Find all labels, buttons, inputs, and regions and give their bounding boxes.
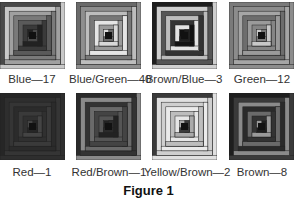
block-label: Red/Brown—1	[69, 166, 149, 178]
log-cabin-block	[76, 2, 141, 69]
log-cabin-block	[0, 2, 65, 69]
block-label: Blue—17	[0, 73, 72, 85]
block-label: Brown/Blue—3	[144, 73, 224, 85]
log-cabin-block	[229, 93, 294, 160]
log-cabin-block	[76, 93, 141, 160]
block-label: Blue/Green—40	[69, 73, 149, 85]
log-cabin-block	[0, 93, 65, 160]
log-cabin-block	[229, 2, 294, 69]
figure-caption: Figure 1	[0, 183, 297, 198]
log-cabin-block	[152, 93, 217, 160]
block-label: Yellow/Brown—2	[144, 166, 224, 178]
block-label: Brown—8	[222, 166, 297, 178]
block-label: Red—1	[0, 166, 72, 178]
log-cabin-block	[152, 2, 217, 69]
block-label: Green—12	[222, 73, 297, 85]
